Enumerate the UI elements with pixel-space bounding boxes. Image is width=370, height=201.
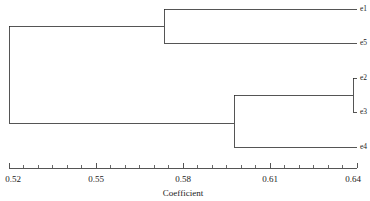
leaf-label-e4: e4 xyxy=(360,142,367,151)
dendrogram-plot-area: e1 e5 e2 e3 e4 xyxy=(0,0,370,201)
x-axis-major-ticks xyxy=(9,163,357,168)
x-tick-label-4: 0.64 xyxy=(345,174,361,184)
leaf-label-e1: e1 xyxy=(360,4,367,13)
x-tick-label-3: 0.61 xyxy=(262,174,278,184)
leaf-label-e3: e3 xyxy=(360,107,367,116)
x-tick-label-2: 0.58 xyxy=(175,174,191,184)
leaf-label-e2: e2 xyxy=(360,73,367,82)
x-tick-label-0: 0.52 xyxy=(5,174,21,184)
x-axis: 0.52 0.55 0.58 0.61 0.64 Coefficient xyxy=(5,163,361,198)
leaf-label-group: e1 e5 e2 e3 e4 xyxy=(360,4,367,151)
x-axis-title: Coefficient xyxy=(163,188,204,198)
x-tick-label-1: 0.55 xyxy=(88,174,104,184)
dendrogram-branches xyxy=(9,9,357,147)
x-axis-tick-labels: 0.52 0.55 0.58 0.61 0.64 xyxy=(5,174,361,184)
leaf-label-e5: e5 xyxy=(360,38,367,47)
dendrogram-chart: e1 e5 e2 e3 e4 xyxy=(0,0,370,201)
